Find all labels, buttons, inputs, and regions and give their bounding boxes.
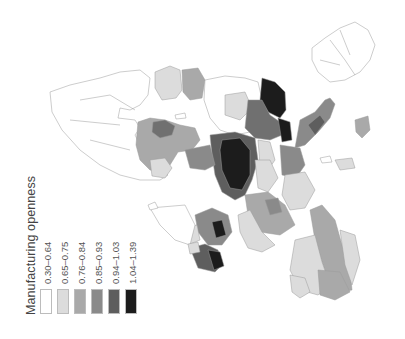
region-south-centre [282,172,315,210]
region-germany-e [278,118,292,142]
legend-label-4: 0.85–0.93 [93,242,104,284]
legend-label-3: 0.76–0.84 [76,242,87,284]
legend-swatch-5 [108,289,120,314]
region-sardinia [335,158,355,170]
island-3 [320,156,332,163]
legend-swatch-1 [40,289,52,314]
island-1 [175,113,186,119]
region-scandinavia [312,22,375,82]
region-hungary-light [255,160,278,192]
legend-label-6: 1.04–1.39 [127,242,138,284]
legend-swatch-4 [91,289,103,314]
legend-title: Manufacturing openness [24,176,38,315]
legend-label-5: 0.94–1.03 [110,242,121,284]
region-north-islands [155,66,182,100]
legend-label-2: 0.65–0.75 [59,242,70,284]
region-bottom-light [188,242,200,254]
region-north-mid [182,68,205,100]
region-sicily [355,116,370,138]
legend-swatch-6 [125,289,137,314]
legend-label-1: 0.30–0.64 [42,242,53,284]
region-channel-coast [150,205,195,245]
legend-swatch-2 [57,289,69,314]
legend-swatch-3 [74,289,86,314]
